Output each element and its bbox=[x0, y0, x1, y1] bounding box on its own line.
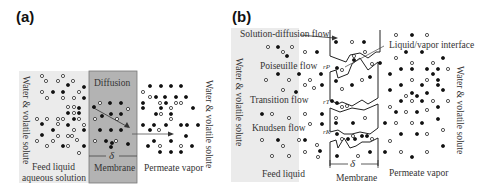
panel-a-right-side-label: Water & volatile solute bbox=[203, 80, 213, 168]
panel-b-left-side-label: Water & volatile solute bbox=[233, 58, 243, 146]
panel-a-permeate-label: Permeate vapor bbox=[144, 164, 203, 174]
panel-b-flow-poiseuille: Poiseuille flow bbox=[260, 62, 317, 72]
panel-a-membrane-label: Membrane bbox=[94, 164, 135, 174]
panel-b-pore-radius-k: rK bbox=[323, 129, 330, 136]
panel-b-pore-radius-p: rP bbox=[323, 64, 330, 71]
panel-b-interface-label: Liquid/vapor interface bbox=[389, 41, 474, 51]
panel-b-permeate-molecules bbox=[378, 33, 449, 158]
panel-b-thickness-symbol: δ bbox=[350, 158, 355, 169]
panel-a-thickness-symbol: δ bbox=[109, 150, 114, 161]
panel-b-flow-transition: Transition flow bbox=[250, 96, 309, 106]
panel-b-flow-solution-diffusion: Solution-diffusion flow bbox=[240, 30, 329, 40]
panel-b-permeate-label: Permeate vapor bbox=[389, 169, 448, 179]
panel-a-permeate-molecules bbox=[141, 84, 199, 153]
panel-b-membrane-label: Membrane bbox=[336, 174, 377, 184]
panel-a-left-side-label: Water & volatile solute bbox=[20, 76, 30, 164]
panel-b-feed-label: Feed liquid bbox=[262, 170, 305, 180]
panel-b-right-side-label: Water & volatile solute bbox=[454, 66, 464, 154]
panel-b-membrane bbox=[330, 30, 380, 166]
panel-b-flow-knudsen: Knudsen flow bbox=[252, 124, 306, 134]
panel-a-mechanism-label: Diffusion bbox=[94, 79, 130, 89]
panel-a-feed-sublabel: aqueous solution bbox=[22, 174, 86, 184]
panel-a-feed-label: Feed liquid bbox=[32, 163, 75, 173]
panel-b-pore-radius-t: rT bbox=[323, 99, 330, 106]
